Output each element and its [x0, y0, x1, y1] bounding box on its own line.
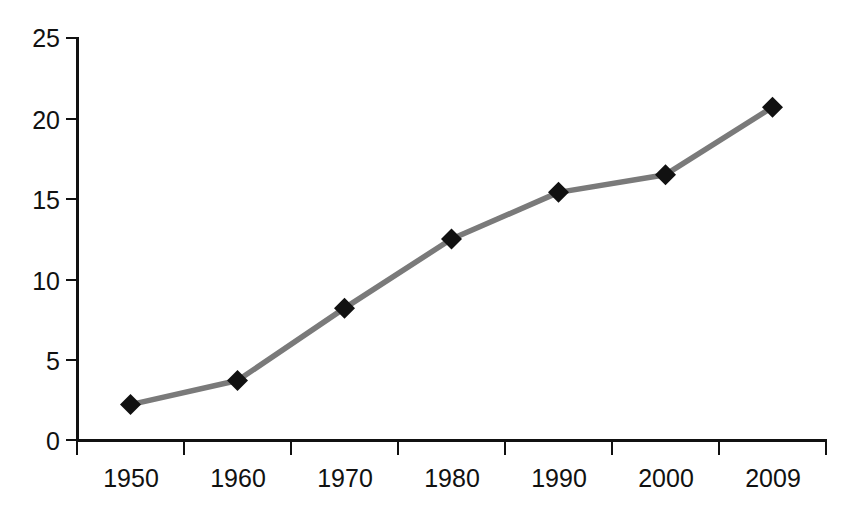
- data-point-marker-1950: [120, 394, 141, 415]
- x-tick-label-1950: 1950: [103, 464, 159, 492]
- x-tick-label-1970: 1970: [317, 464, 373, 492]
- y-axis-tick-labels: 25 20 15 10 5 0: [32, 24, 60, 455]
- x-tick-label-1980: 1980: [424, 464, 480, 492]
- data-series-markers: [120, 97, 783, 415]
- y-tick-label-5: 5: [46, 347, 60, 375]
- line-chart: 25 20 15 10 5 0: [0, 0, 851, 517]
- y-tick-label-25: 25: [32, 24, 60, 52]
- y-axis-ticks: [66, 38, 77, 440]
- x-axis-tick-labels: 1950 1960 1970 1980 1990 2000 2009: [103, 464, 801, 492]
- y-tick-label-15: 15: [32, 186, 60, 214]
- y-tick-label-10: 10: [32, 267, 60, 295]
- y-tick-label-20: 20: [32, 106, 60, 134]
- data-point-marker-1990: [548, 182, 569, 203]
- data-series-line: [131, 107, 773, 404]
- x-tick-label-2000: 2000: [638, 464, 694, 492]
- x-axis-ticks: [77, 440, 826, 455]
- chart-page: 25 20 15 10 5 0: [0, 0, 851, 517]
- x-tick-label-1960: 1960: [210, 464, 266, 492]
- x-tick-label-2009: 2009: [745, 464, 801, 492]
- x-tick-label-1990: 1990: [531, 464, 587, 492]
- y-tick-label-0: 0: [46, 427, 60, 455]
